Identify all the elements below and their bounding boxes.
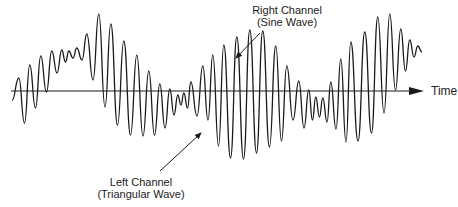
right-channel-label: Right Channel (Sine Wave) [246,4,328,28]
left-channel-label-line1: Left Channel [96,176,186,188]
right-channel-label-line2: (Sine Wave) [246,16,328,28]
waveform-diagram [0,0,458,207]
time-axis-arrowhead-icon [409,87,424,95]
left-channel-pointer-arrow [160,133,201,171]
modulated-waveform [12,14,422,159]
time-axis-label: Time [431,85,457,97]
left-channel-label: Left Channel (Triangular Wave) [96,176,186,200]
left-channel-label-line2: (Triangular Wave) [96,188,186,200]
right-channel-label-line1: Right Channel [246,4,328,16]
